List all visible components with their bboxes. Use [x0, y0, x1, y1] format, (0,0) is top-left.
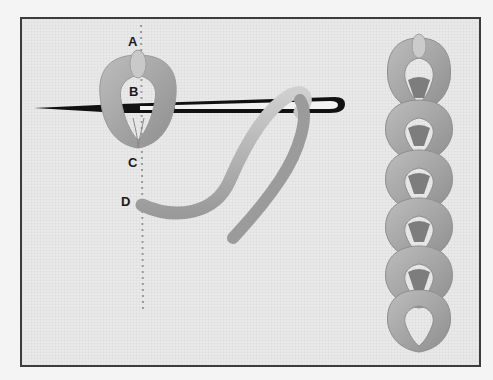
- finished-chain: [386, 34, 453, 352]
- label-a: A: [128, 35, 137, 48]
- label-c: C: [128, 156, 137, 169]
- label-d: D: [121, 195, 130, 208]
- stitch-loop: [100, 50, 176, 148]
- chain-stitch-illustration: [0, 0, 493, 380]
- label-b: B: [129, 85, 138, 98]
